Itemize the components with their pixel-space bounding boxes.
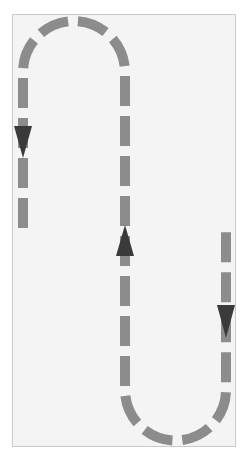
arrow-down-icon bbox=[14, 126, 32, 158]
arrow-up-icon bbox=[116, 225, 134, 256]
diagram-canvas: Dashed serpentine route with direction a… bbox=[0, 0, 241, 459]
arrow-down-icon bbox=[217, 305, 235, 338]
serpentine-path bbox=[0, 0, 241, 459]
